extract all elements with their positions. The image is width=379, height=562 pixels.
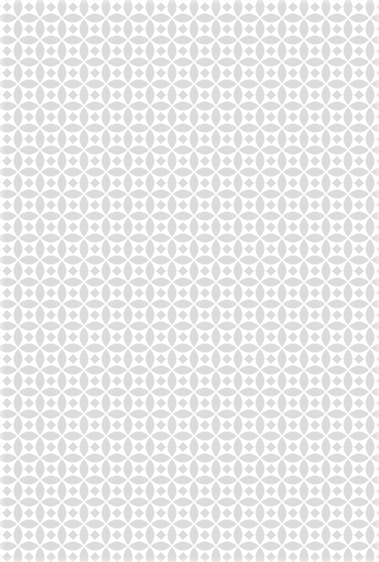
geometric-pattern-background xyxy=(0,0,379,562)
